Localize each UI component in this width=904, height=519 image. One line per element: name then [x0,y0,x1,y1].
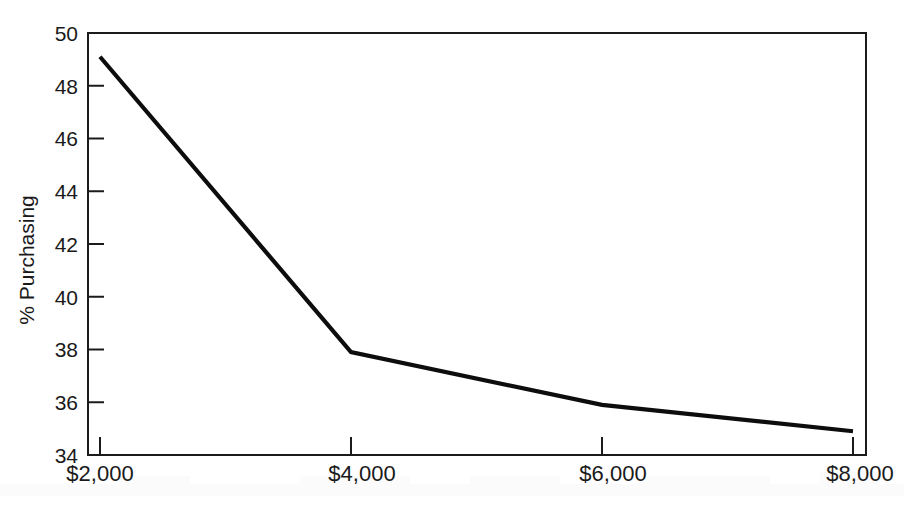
y-tick-label-48: 48 [55,75,78,98]
scan-artifact-band [0,472,904,496]
y-axis-ticks [88,86,104,403]
plot-frame [88,33,866,455]
y-tick-label-50: 50 [55,22,78,45]
y-tick-label-38: 38 [55,338,78,361]
chart-svg-canvas: 50 48 46 44 42 40 38 36 34 $2,000 $4,000… [0,0,904,519]
y-tick-label-44: 44 [55,180,79,203]
x-tick-label-4000: $4,000 [328,461,395,486]
y-axis-title: % Purchasing [15,195,38,325]
y-tick-label-36: 36 [55,391,78,414]
x-tick-label-2000: $2,000 [66,461,133,486]
y-tick-label-42: 42 [55,233,78,256]
data-series-line [100,57,853,432]
y-tick-label-46: 46 [55,127,78,150]
x-axis-ticks [100,437,853,455]
x-tick-label-8000: $8,000 [826,461,893,486]
line-chart-figure: 50 48 46 44 42 40 38 36 34 $2,000 $4,000… [0,0,904,519]
x-tick-label-6000: $6,000 [579,461,646,486]
y-tick-label-40: 40 [55,286,78,309]
